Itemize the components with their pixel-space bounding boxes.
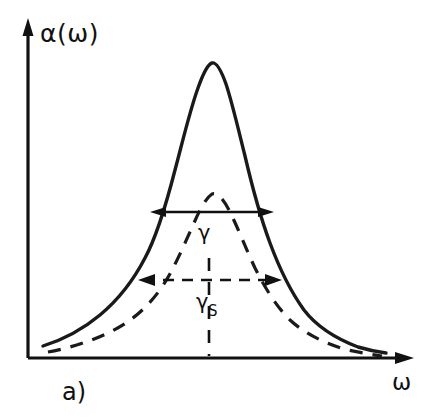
panel-label: a)	[62, 378, 86, 406]
spectral-lineshape-plot: α(ω) ω γ γ S a)	[0, 0, 444, 420]
gamma-s-width-label: γ S	[196, 290, 218, 320]
x-axis-arrowhead	[395, 352, 414, 364]
y-axis-label: α(ω)	[40, 19, 99, 48]
gamma-width-arrow	[150, 207, 274, 217]
gamma-arrow-head-right	[258, 207, 274, 217]
figure-container: α(ω) ω γ γ S a)	[0, 0, 444, 420]
y-axis-arrowhead	[23, 18, 34, 36]
gamma-s-arrow-head-right	[265, 274, 282, 286]
gamma-width-label: γ	[198, 221, 210, 245]
gamma-s-arrow-head-left	[138, 274, 155, 286]
x-axis-label: ω	[392, 369, 411, 395]
gamma-arrow-head-left	[150, 207, 166, 217]
gamma-s-subscript-label: S	[208, 302, 218, 320]
gamma-s-base-label: γ	[196, 290, 208, 314]
broad-line-dashed-curve	[48, 194, 382, 356]
